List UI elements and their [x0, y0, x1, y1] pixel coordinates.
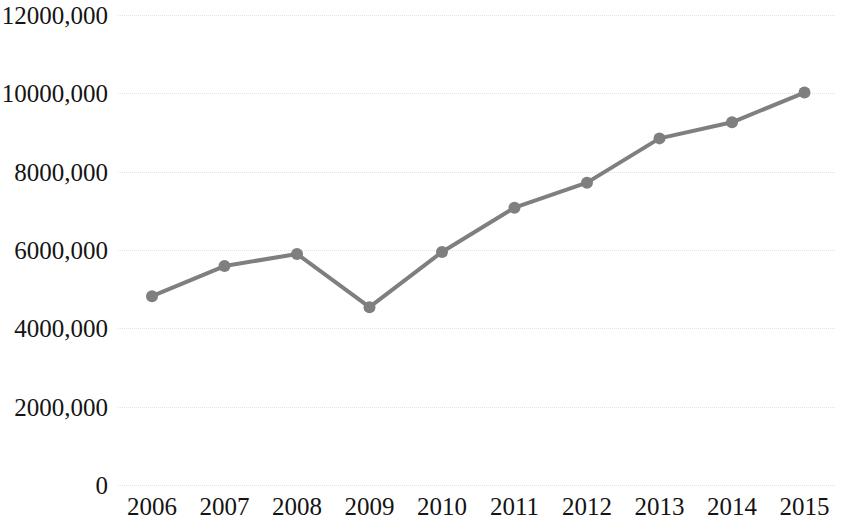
- y-axis-tick-label: 0: [0, 473, 108, 498]
- x-axis-tick-label: 2010: [402, 492, 482, 522]
- x-axis-tick-label: 2011: [475, 492, 555, 522]
- data-point-marker: [291, 248, 303, 260]
- x-axis-tick-label: 2006: [112, 492, 192, 522]
- data-point-marker: [146, 290, 158, 302]
- y-axis-tick-label: 12000,000: [0, 3, 108, 28]
- data-point-marker: [581, 177, 593, 189]
- data-point-marker: [219, 260, 231, 272]
- x-axis: 2006200720082009201020112012201320142015: [118, 492, 835, 522]
- data-point-marker: [436, 246, 448, 258]
- x-axis-tick-label: 2008: [257, 492, 337, 522]
- y-axis: 02000,0004000,0006000,0008000,00010000,0…: [0, 0, 110, 522]
- y-axis-tick-label: 6000,000: [0, 238, 108, 263]
- y-axis-tick-label: 2000,000: [0, 394, 108, 419]
- data-point-marker: [364, 301, 376, 313]
- gridline: [118, 485, 835, 486]
- data-point-marker: [509, 202, 521, 214]
- data-point-marker: [654, 132, 666, 144]
- data-point-marker: [799, 87, 811, 99]
- line-chart: 02000,0004000,0006000,0008000,00010000,0…: [0, 0, 843, 522]
- x-axis-tick-label: 2007: [185, 492, 265, 522]
- x-axis-tick-label: 2014: [692, 492, 772, 522]
- plot-area: [118, 15, 835, 485]
- x-axis-tick-label: 2013: [620, 492, 700, 522]
- x-axis-tick-label: 2009: [330, 492, 410, 522]
- x-axis-tick-label: 2015: [765, 492, 843, 522]
- data-point-marker: [726, 116, 738, 128]
- x-axis-tick-label: 2012: [547, 492, 627, 522]
- series-line: [118, 15, 835, 485]
- y-axis-tick-label: 10000,000: [0, 81, 108, 106]
- y-axis-tick-label: 8000,000: [0, 159, 108, 184]
- series-polyline: [152, 93, 805, 308]
- y-axis-tick-label: 4000,000: [0, 316, 108, 341]
